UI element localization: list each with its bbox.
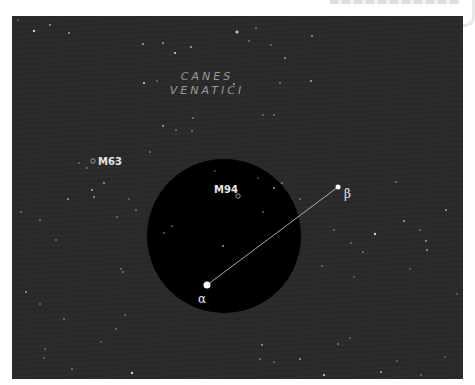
star-icon [91,189,93,191]
star-icon [156,80,158,82]
constellation-label: CANES VENATICI [167,70,247,98]
star-icon [175,129,177,131]
star-icon [63,318,65,320]
star-icon [310,80,312,82]
star-icon [299,198,301,200]
star-icon [284,57,286,59]
star-icon [55,239,57,241]
cropped-header-strip [330,0,460,4]
star-icon [396,360,397,361]
star-icon [349,337,351,339]
star-icon [120,268,122,270]
star-icon [362,251,364,253]
star-icon [131,372,133,374]
star-icon [337,343,339,345]
star-icon [426,249,428,251]
star-icon [409,268,410,269]
star-icon [49,24,51,26]
star-icon [149,151,151,153]
star-icon [39,303,41,305]
star-icon [122,271,124,273]
star-icon [222,245,224,247]
star-icon [395,181,397,183]
star-icon [143,82,145,84]
star-icon [25,291,27,293]
constellation-label-line2: VENATICI [167,84,247,98]
star-icon [93,196,95,198]
star-icon [262,211,264,213]
beta-star-label: β [344,187,351,201]
star-icon [259,358,261,360]
star-icon [273,361,275,363]
star-icon [39,219,41,221]
star-icon [100,341,101,342]
star-icon [281,182,283,184]
star-icon [86,167,88,169]
star-icon [236,31,239,34]
star-icon [255,27,257,29]
star-icon [419,229,421,231]
star-icon [192,117,194,119]
star-icon [299,358,301,360]
field-of-view-circle [147,159,301,313]
star-icon [44,348,46,350]
star-icon [279,82,281,84]
beta-star-icon [336,185,341,190]
star-icon [456,293,457,294]
star-icon [380,371,382,373]
star-icon [71,368,73,370]
star-icon [124,314,126,316]
star-icon [115,328,117,330]
star-icon [162,125,164,127]
star-icon [273,114,275,116]
star-icon [214,170,215,171]
m63-galaxy-icon [91,159,95,163]
star-icon [261,344,263,346]
star-icon [163,232,165,234]
star-icon [103,182,105,184]
star-icon [116,216,118,218]
star-icon [135,209,137,211]
star-icon [68,32,70,34]
star-icon [353,276,354,277]
star-icon [33,30,35,32]
star-icon [191,130,193,132]
star-icon [420,374,422,376]
star-icon [43,357,45,359]
constellation-label-line1: CANES [167,70,247,84]
star-icon [311,35,313,37]
star-icon [257,177,258,178]
m94-label: M94 [214,184,238,195]
star-icon [444,356,445,357]
star-icon [262,114,264,116]
star-icon [425,240,427,242]
m63-label: M63 [98,156,122,167]
star-icon [270,44,272,46]
star-icon [20,211,22,213]
star-icon [333,229,335,231]
star-icon [171,225,173,227]
star-icon [142,43,144,45]
star-icon [190,46,192,48]
star-icon [321,265,323,267]
star-icon [67,198,69,200]
alpha-star-label: α [198,292,206,306]
star-icon [128,198,129,199]
star-icon [273,187,275,189]
star-icon [374,233,376,235]
alpha-star-icon [204,282,211,289]
star-icon [350,242,352,244]
star-icon [445,209,447,211]
star-icon [403,220,405,222]
star-icon [174,52,176,54]
star-icon [162,42,164,44]
star-icon [78,162,79,163]
star-icon [17,19,18,20]
star-icon [248,40,250,42]
star-chart-panel: CANES VENATICI M63 M94 β α [12,16,463,379]
star-icon [323,374,325,376]
